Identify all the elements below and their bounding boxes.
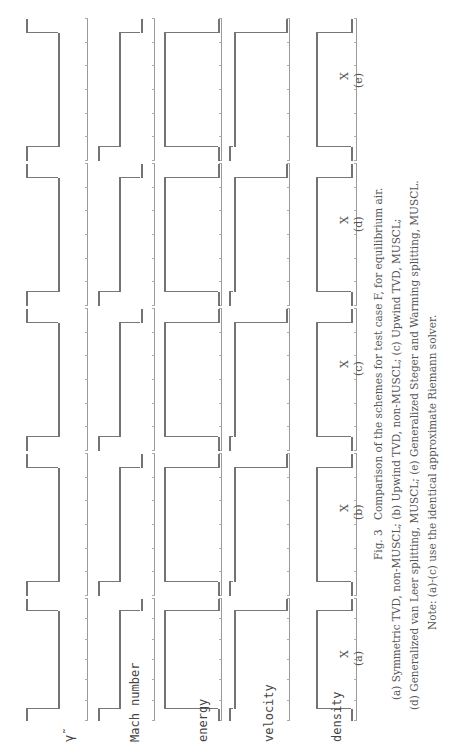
exact-solution-line: [164, 291, 218, 292]
x-axis-tick: [287, 618, 290, 619]
x-axis-tick: [85, 453, 88, 454]
xlabel-d: X: [338, 216, 351, 224]
x-axis-tick: [85, 720, 88, 721]
exact-solution-line: [26, 32, 58, 33]
data-point: [218, 719, 220, 721]
caption-line-2: (d) Generalized van Leer splitting, MUSC…: [408, 181, 420, 710]
x-axis-tick: [354, 163, 357, 164]
plot-panel-e-gamma: [22, 18, 88, 160]
x-axis-tick: [287, 305, 290, 306]
row-label-energy: energy: [196, 699, 210, 742]
x-axis-tick: [354, 89, 357, 90]
x-axis-tick: [85, 548, 88, 549]
x-axis-tick: [287, 113, 290, 114]
data-point: [58, 145, 60, 147]
xlabel-a: X: [338, 650, 351, 658]
x-axis-tick: [219, 210, 222, 211]
exact-solution-line: [26, 177, 58, 178]
exact-solution-line: [26, 467, 58, 468]
exact-solution-line: [229, 146, 233, 147]
exact-solution-line: [26, 146, 58, 147]
data-point: [119, 707, 121, 709]
exact-solution-line: [26, 581, 58, 582]
data-point: [141, 609, 143, 611]
data-point: [218, 304, 220, 306]
data-point: [218, 321, 220, 323]
x-axis-tick: [219, 113, 222, 114]
exact-solution-line: [234, 322, 286, 323]
data-point: [26, 449, 28, 451]
xlabel-e: X: [338, 72, 351, 80]
x-axis-tick: [354, 234, 357, 235]
data-point: [351, 466, 353, 468]
x-axis-tick: [152, 571, 155, 572]
x-axis-tick: [152, 65, 155, 66]
exact-solution-line: [119, 322, 140, 323]
data-point: [229, 159, 231, 161]
x-axis-tick: [152, 187, 155, 188]
x-axis-tick: [354, 281, 357, 282]
x-axis-tick: [85, 659, 88, 660]
x-axis-tick: [354, 618, 357, 619]
x-axis-tick: [219, 571, 222, 572]
data-point: [286, 321, 288, 323]
x-axis-tick: [219, 234, 222, 235]
data-point: [218, 466, 220, 468]
data-point: [119, 145, 121, 147]
x-axis-tick: [152, 113, 155, 114]
x-axis-tick: [354, 639, 357, 640]
figure-number: Fig. 3: [372, 529, 384, 560]
exact-solution-line: [164, 146, 218, 147]
x-axis-tick: [152, 639, 155, 640]
exact-solution-line: [316, 322, 351, 323]
x-axis-tick: [354, 571, 357, 572]
plot-panel-a-gamma: [22, 598, 88, 720]
x-axis-tick: [354, 453, 357, 454]
x-axis-tick: [85, 355, 88, 356]
x-axis-tick: [354, 450, 357, 451]
x-axis-tick: [219, 42, 222, 43]
plot-panel-d-density: [294, 163, 357, 305]
plot-panel-a-density: [294, 598, 357, 720]
x-axis-tick: [152, 453, 155, 454]
x-axis-tick: [219, 379, 222, 380]
exact-solution-line: [98, 146, 119, 147]
x-axis-tick: [354, 136, 357, 137]
x-axis-tick: [219, 618, 222, 619]
exact-solution-line: [316, 32, 351, 33]
x-axis-tick: [152, 210, 155, 211]
x-axis-tick: [152, 548, 155, 549]
plot-panel-b-mach: [90, 453, 155, 595]
x-axis-tick: [85, 500, 88, 501]
data-point: [98, 449, 100, 451]
x-axis-tick: [354, 65, 357, 66]
data-point: [229, 449, 231, 451]
x-axis-tick: [85, 450, 88, 451]
data-point: [351, 176, 353, 178]
exact-solution-line: [164, 436, 218, 437]
x-axis-tick: [219, 679, 222, 680]
x-axis-tick: [354, 403, 357, 404]
x-axis-tick: [219, 477, 222, 478]
exact-solution-line: [316, 467, 351, 468]
data-point: [26, 719, 28, 721]
exact-solution-line: [316, 146, 351, 147]
x-axis-tick: [85, 136, 88, 137]
exact-solution-line: [98, 291, 119, 292]
exact-solution-line: [316, 610, 351, 611]
plot-panel-c-density: [294, 308, 357, 450]
exact-solution-line: [234, 610, 286, 611]
data-point: [58, 707, 60, 709]
data-point: [98, 159, 100, 161]
x-axis-tick: [287, 571, 290, 572]
data-point: [234, 290, 236, 292]
x-axis-tick: [152, 659, 155, 660]
x-axis-tick: [287, 355, 290, 356]
x-axis-tick: [354, 595, 357, 596]
exact-solution-line: [26, 610, 58, 611]
x-axis-tick: [85, 65, 88, 66]
x-axis-tick: [85, 426, 88, 427]
sublabel-c: (c): [352, 361, 365, 376]
row-label-density: density: [330, 691, 344, 742]
exact-solution-line: [229, 291, 233, 292]
